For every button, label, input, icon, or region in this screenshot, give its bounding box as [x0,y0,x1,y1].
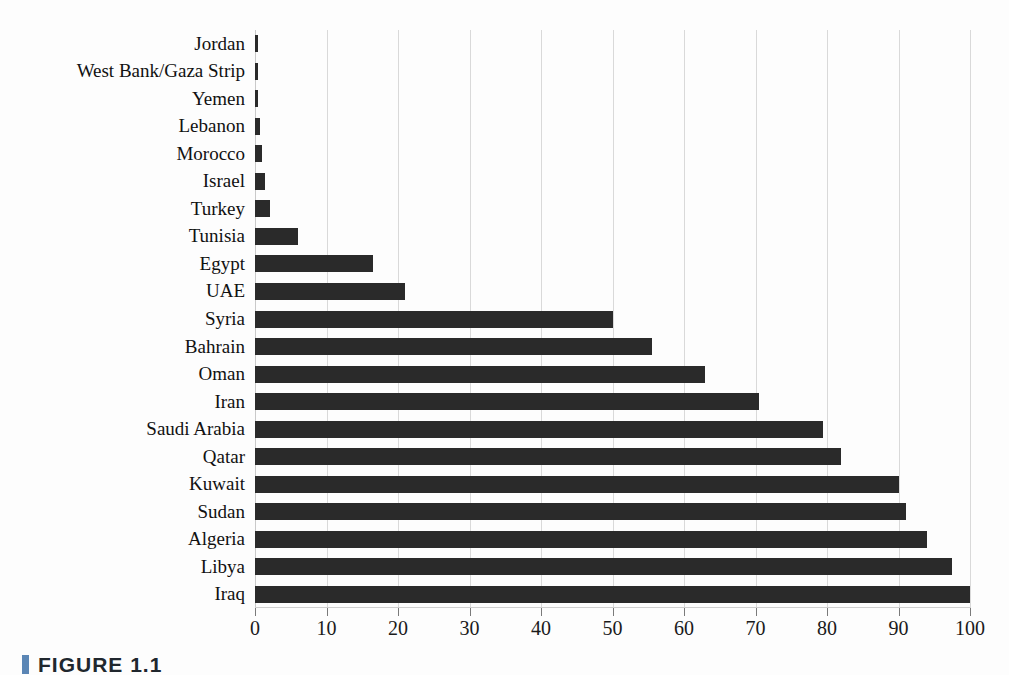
bar-lebanon [255,118,260,135]
x-tick-100 [970,608,971,616]
category-label-jordan: Jordan [10,34,255,54]
x-tick-label-40: 40 [511,617,571,640]
category-label-iran: Iran [10,392,255,412]
x-tick-label-80: 80 [797,617,857,640]
bar-israel [255,173,265,190]
category-label-tunisia: Tunisia [10,226,255,246]
category-label-egypt: Egypt [10,254,255,274]
category-label-libya: Libya [10,557,255,577]
category-label-syria: Syria [10,309,255,329]
section-marker-icon [22,655,29,674]
gridline-90 [899,30,900,608]
category-label-bahrain: Bahrain [10,337,255,357]
x-tick-70 [756,608,757,616]
x-tick-label-10: 10 [297,617,357,640]
bar-uae [255,283,405,300]
x-tick-label-50: 50 [583,617,643,640]
category-label-algeria: Algeria [10,529,255,549]
category-label-turkey: Turkey [10,199,255,219]
bar-west-bank-gaza-strip [255,63,258,80]
figure-caption: FIGURE 1.1 [22,655,162,675]
x-tick-80 [827,608,828,616]
bar-syria [255,311,613,328]
bar-iraq [255,586,970,603]
bar-yemen [255,90,258,107]
x-tick-50 [613,608,614,616]
bar-jordan [255,35,258,52]
bar-algeria [255,531,927,548]
category-label-saudi-arabia: Saudi Arabia [10,419,255,439]
category-label-west-bank-gaza-strip: West Bank/Gaza Strip [10,61,255,81]
category-label-morocco: Morocco [10,144,255,164]
category-label-oman: Oman [10,364,255,384]
gridline-80 [827,30,828,608]
category-label-lebanon: Lebanon [10,116,255,136]
gridline-100 [970,30,971,608]
gridline-70 [756,30,757,608]
x-tick-10 [327,608,328,616]
bar-saudi-arabia [255,421,823,438]
gridline-50 [613,30,614,608]
x-tick-label-90: 90 [869,617,929,640]
x-tick-0 [255,608,256,616]
bar-turkey [255,200,270,217]
x-tick-20 [398,608,399,616]
bar-morocco [255,145,262,162]
x-tick-label-70: 70 [726,617,786,640]
plot-area [255,30,970,608]
x-tick-60 [684,608,685,616]
bar-egypt [255,255,373,272]
category-label-sudan: Sudan [10,502,255,522]
category-label-iraq: Iraq [10,584,255,604]
figure-caption-text: FIGURE 1.1 [38,655,162,674]
bar-iran [255,393,759,410]
category-label-qatar: Qatar [10,447,255,467]
bar-bahrain [255,338,652,355]
gridline-60 [684,30,685,608]
category-label-yemen: Yemen [10,89,255,109]
x-tick-label-60: 60 [654,617,714,640]
x-tick-label-0: 0 [225,617,285,640]
x-tick-40 [541,608,542,616]
x-tick-90 [899,608,900,616]
category-label-column: JordanWest Bank/Gaza StripYemenLebanonMo… [0,30,255,608]
x-tick-label-20: 20 [368,617,428,640]
bar-qatar [255,448,841,465]
bar-tunisia [255,228,298,245]
category-label-kuwait: Kuwait [10,474,255,494]
horizontal-bar-chart: JordanWest Bank/Gaza StripYemenLebanonMo… [0,0,1009,675]
category-label-uae: UAE [10,281,255,301]
bar-libya [255,558,952,575]
x-tick-label-100: 100 [940,617,1000,640]
bar-kuwait [255,476,899,493]
bar-sudan [255,503,906,520]
bar-oman [255,366,705,383]
x-tick-label-30: 30 [440,617,500,640]
category-label-israel: Israel [10,171,255,191]
x-tick-30 [470,608,471,616]
